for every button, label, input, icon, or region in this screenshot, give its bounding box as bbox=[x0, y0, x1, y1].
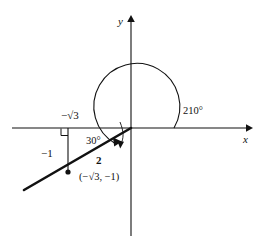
y-axis-label: y bbox=[118, 16, 123, 27]
y-coordinate-label: −1 bbox=[41, 148, 53, 159]
x-coordinate-label: −√3 bbox=[61, 110, 79, 121]
angle-30-label: 30° bbox=[86, 136, 101, 147]
radius-label: 2 bbox=[96, 155, 102, 166]
x-axis-label: x bbox=[243, 134, 248, 145]
angle-210-label: 210° bbox=[183, 106, 203, 117]
plotted-point bbox=[65, 169, 70, 174]
x-axis bbox=[12, 124, 253, 132]
y-axis bbox=[127, 15, 135, 236]
point-coordinates-label: (−√3, −1) bbox=[79, 172, 119, 183]
trig-angle-diagram: y x 210° 30° −√3 −1 2 (−√3, −1) bbox=[0, 0, 264, 244]
diagram-canvas bbox=[0, 0, 264, 244]
right-angle-marker bbox=[61, 129, 68, 136]
angle-arc-210 bbox=[94, 63, 180, 146]
